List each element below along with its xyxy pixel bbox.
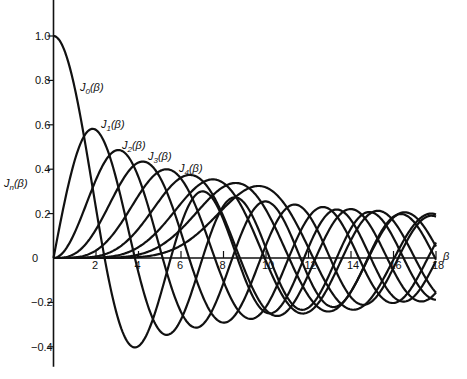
x-tick-label: 16 xyxy=(390,259,402,271)
x-tick-label: 12 xyxy=(305,259,317,271)
label-j1: J1(β) xyxy=(100,118,125,133)
curve-labels: Jn(β)J0(β)J1(β)J2(β)J3(β)J4(β) xyxy=(3,81,203,192)
curve-j1 xyxy=(54,129,437,335)
axes xyxy=(54,0,437,367)
y-tick-label: 0.8 xyxy=(35,74,50,86)
y-axis-label: Jn(β) xyxy=(3,177,28,192)
x-tick-label: 14 xyxy=(347,259,359,271)
x-tick-label: 8 xyxy=(220,259,226,271)
y-tick-label: 0.2 xyxy=(35,208,50,220)
label-j0: J0(β) xyxy=(79,81,104,96)
x-axis-label: β xyxy=(442,250,450,262)
y-tick-label: 0.6 xyxy=(35,119,50,131)
bessel-function-chart: 24681012141618−0.4−0.200.20.40.60.81.0β … xyxy=(0,0,467,379)
x-tick-label: 2 xyxy=(92,259,98,271)
y-tick-label: 0 xyxy=(32,252,38,264)
y-tick-label: 1.0 xyxy=(35,30,50,42)
y-tick-label: 0.4 xyxy=(35,163,50,175)
x-tick-label: 10 xyxy=(262,259,274,271)
bessel-curves xyxy=(54,36,437,347)
x-tick-label: 4 xyxy=(135,259,141,271)
y-tick-label: −0.4 xyxy=(31,341,53,353)
label-j3: J3(β) xyxy=(147,150,172,165)
x-tick-label: 6 xyxy=(177,259,183,271)
y-tick-label: −0.2 xyxy=(31,296,53,308)
